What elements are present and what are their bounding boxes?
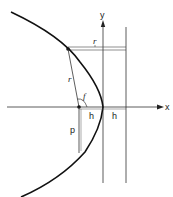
h-left-label: h [89, 111, 94, 121]
parabola-curve [11, 12, 103, 197]
parabola-diagram: y x r r f p h h [0, 0, 173, 197]
f-label: f [83, 91, 87, 101]
x-axis-arrow-icon [157, 105, 164, 110]
r-slant-label: r [68, 74, 72, 84]
diagram-svg: y x r r f p h h [0, 0, 173, 197]
h-right-label: h [112, 111, 117, 121]
y-axis-arrow-icon [101, 20, 105, 27]
p-label: p [70, 125, 75, 135]
x-axis-label: x [165, 102, 170, 112]
y-axis-label: y [100, 10, 105, 20]
r-top-label: r [93, 36, 97, 46]
